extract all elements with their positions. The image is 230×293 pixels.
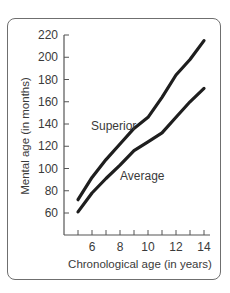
y-axis-title: Mental age (in months)	[19, 77, 31, 195]
y-tick-label: 200	[38, 50, 58, 64]
y-tick-label: 100	[38, 162, 58, 176]
series-line-average	[78, 88, 204, 211]
y-tick-label: 180	[38, 73, 58, 87]
y-tick-label: 220	[38, 28, 58, 42]
series-label-superior: Superior	[91, 119, 136, 133]
x-axis-title: Chronological age (in years)	[68, 258, 212, 270]
x-axis: 68101214	[64, 230, 211, 254]
y-tick-label: 140	[38, 117, 58, 131]
y-tick-label: 120	[38, 139, 58, 153]
x-tick-label: 10	[141, 240, 155, 254]
line-chart: 6080100120140160180200220 68101214 Super…	[0, 0, 230, 293]
x-tick-label: 14	[197, 240, 211, 254]
x-tick-label: 12	[169, 240, 183, 254]
y-tick-label: 160	[38, 95, 58, 109]
x-tick-label: 8	[117, 240, 124, 254]
x-tick-label: 6	[89, 240, 96, 254]
series-label-average: Average	[120, 169, 165, 183]
y-tick-label: 80	[45, 184, 59, 198]
y-axis: 6080100120140160180200220	[38, 28, 69, 235]
y-tick-label: 60	[45, 206, 59, 220]
